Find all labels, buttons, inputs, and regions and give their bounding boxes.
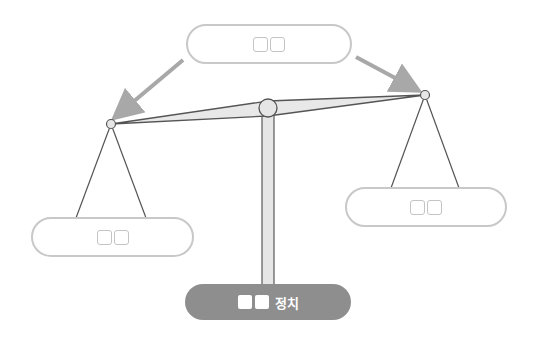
placeholder-square [270, 37, 285, 52]
placeholder-square [253, 37, 268, 52]
pivot [259, 99, 277, 117]
placeholder-square [97, 230, 112, 245]
placeholder-square [114, 230, 129, 245]
arrow-right [356, 57, 412, 87]
placeholder-square [255, 295, 269, 309]
arrow-left [120, 60, 183, 113]
scale-pole [262, 112, 274, 288]
base-label-text: 정치 [275, 293, 299, 312]
right-joint [421, 91, 430, 100]
right-pan-box [345, 187, 507, 227]
placeholder-square [238, 295, 252, 309]
left-pan-box [31, 217, 194, 257]
left-joint [107, 120, 116, 129]
placeholder-square [410, 200, 425, 215]
base-label: 정치 [185, 284, 351, 320]
top-box [186, 24, 352, 64]
placeholder-square [427, 200, 442, 215]
